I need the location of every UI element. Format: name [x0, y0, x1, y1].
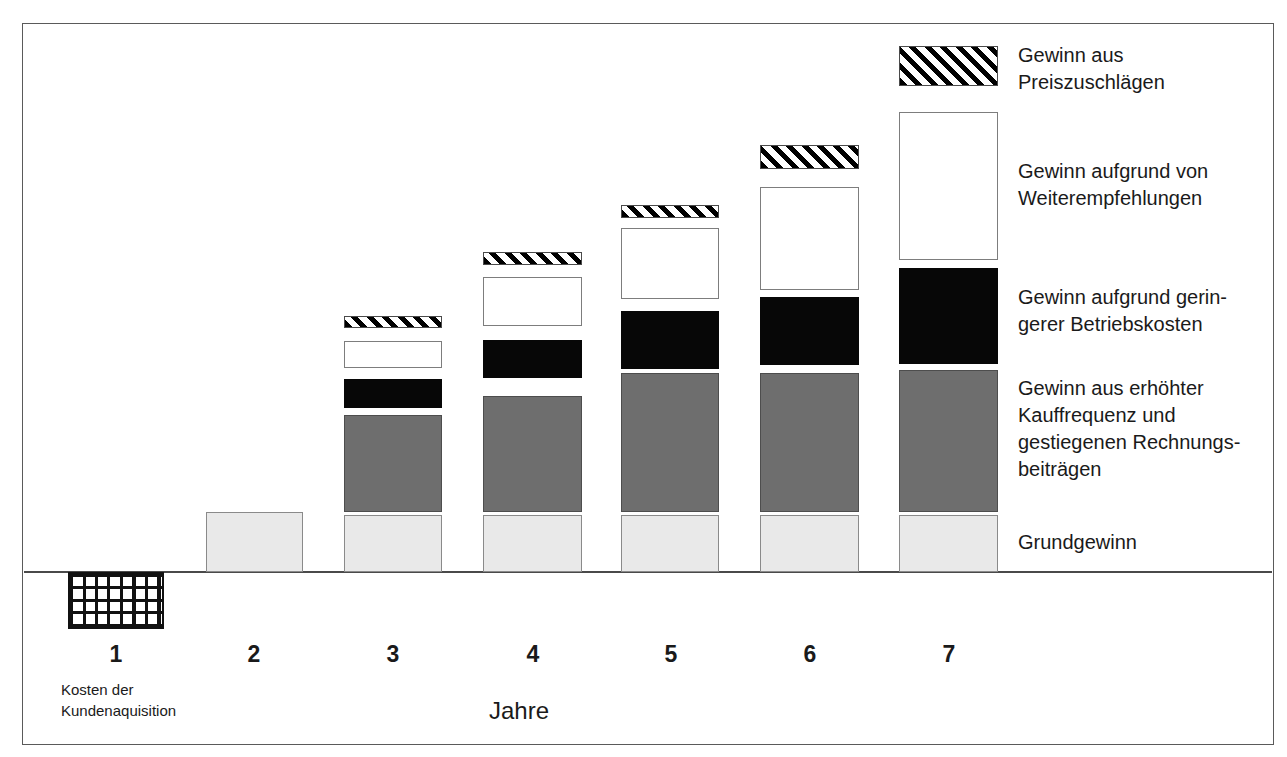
bar-segment-preiszuschlaege — [760, 145, 859, 169]
legend-label-preiszuschlaege: Gewinn aus Preiszuschlägen — [1018, 42, 1165, 96]
legend-label-betriebskosten: Gewinn aufgrund gerin- gerer Betriebskos… — [1018, 284, 1227, 338]
bar-segment-kauffrequenz — [483, 396, 582, 512]
bar-segment-betriebskosten — [621, 311, 719, 369]
bar-segment-preiszuschlaege — [621, 205, 719, 218]
bar-segment-preiszuschlaege — [344, 316, 442, 328]
bar-segment-betriebskosten — [899, 268, 998, 364]
bar-segment-preiszuschlaege — [483, 252, 582, 265]
x-tick-label-7: 7 — [919, 641, 979, 668]
bar-segment-grundgewinn — [621, 515, 719, 572]
bar-segment-kauffrequenz — [344, 415, 442, 512]
bar-segment-acquisition-cost — [68, 572, 164, 629]
bar-segment-grundgewinn — [344, 515, 442, 572]
bar-segment-betriebskosten — [344, 379, 442, 408]
bar-segment-grundgewinn — [899, 515, 998, 572]
bar-segment-betriebskosten — [760, 297, 859, 365]
bar-segment-weiterempfehlungen — [344, 341, 442, 368]
bar-segment-weiterempfehlungen — [621, 228, 719, 299]
x-tick-label-1: 1 — [86, 641, 146, 668]
x-tick-label-6: 6 — [780, 641, 840, 668]
legend-label-grundgewinn: Grundgewinn — [1018, 529, 1137, 556]
bar-segment-kauffrequenz — [760, 373, 859, 512]
acquisition-cost-annotation: Kosten der Kundenaquisition — [61, 679, 176, 721]
bar-segment-preiszuschlaege — [899, 46, 998, 86]
bar-segment-weiterempfehlungen — [760, 187, 859, 290]
bar-segment-kauffrequenz — [899, 370, 998, 512]
bar-segment-weiterempfehlungen — [899, 112, 998, 260]
chart-plot-area: 1 2 3 4 5 6 7 Kosten der Kundenaquisitio… — [0, 0, 1287, 757]
legend-label-kauffrequenz: Gewinn aus erhöhter Kauffrequenz und ges… — [1018, 375, 1240, 483]
bar-segment-kauffrequenz — [621, 373, 719, 512]
x-tick-label-5: 5 — [641, 641, 701, 668]
x-axis-title: Jahre — [489, 697, 549, 725]
legend-label-weiterempfehlungen: Gewinn aufgrund von Weiterempfehlungen — [1018, 158, 1208, 212]
x-tick-label-3: 3 — [363, 641, 423, 668]
bar-segment-grundgewinn — [483, 515, 582, 572]
bar-segment-grundgewinn — [206, 512, 303, 572]
bar-segment-betriebskosten — [483, 340, 582, 378]
x-tick-label-2: 2 — [224, 641, 284, 668]
x-tick-label-4: 4 — [503, 641, 563, 668]
bar-segment-weiterempfehlungen — [483, 277, 582, 326]
bar-segment-grundgewinn — [760, 515, 859, 572]
